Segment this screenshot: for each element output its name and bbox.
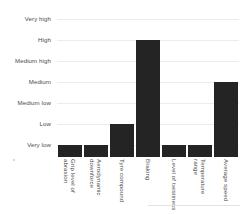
x-axis-tick: Tyre compound	[109, 158, 135, 214]
x-axis-tick-label: Tyre compound	[119, 159, 126, 211]
x-axis-tick-label: Temperature range	[193, 159, 207, 211]
axis-tick-mark	[13, 159, 15, 161]
bar[interactable]	[136, 40, 161, 157]
bar-slot	[110, 19, 135, 157]
bar[interactable]	[58, 145, 83, 157]
bar-slot	[58, 19, 83, 157]
y-axis-tick-label: Low	[0, 121, 51, 127]
bar-slot	[214, 19, 239, 157]
y-axis-tick-label: Very high	[0, 16, 51, 22]
y-axis-tick-label: Medium high	[0, 58, 51, 64]
x-axis-tick-label: Level of twistiness	[171, 159, 178, 211]
x-axis-tick-label: Average speed	[223, 159, 230, 211]
x-axis-tick-label: Aerodynamic downforce	[89, 159, 103, 211]
bar-series	[57, 19, 239, 157]
x-axis-tick-label: Braking	[145, 159, 152, 180]
bar[interactable]	[110, 124, 135, 157]
bar[interactable]	[214, 82, 239, 157]
bar-slot	[162, 19, 187, 157]
bar-slot	[84, 19, 109, 157]
y-axis-tick-label: Medium	[0, 79, 51, 85]
y-axis-tick-label: High	[0, 37, 51, 43]
bar-slot	[188, 19, 213, 157]
x-axis-tick: Grip level of abrasion	[57, 158, 83, 214]
bar[interactable]	[84, 145, 109, 157]
bar[interactable]	[162, 145, 187, 157]
footer-rule	[148, 205, 240, 206]
bar-chart: Very highHighMedium highMediumMedium low…	[0, 0, 247, 214]
y-axis-tick-label: Medium low	[0, 100, 51, 106]
bar-slot	[136, 19, 161, 157]
x-axis-tick: Aerodynamic downforce	[83, 158, 109, 214]
bar[interactable]	[188, 145, 213, 157]
x-axis-tick-label: Grip level of abrasion	[63, 159, 77, 211]
y-axis-tick-label: Very low	[0, 142, 51, 148]
